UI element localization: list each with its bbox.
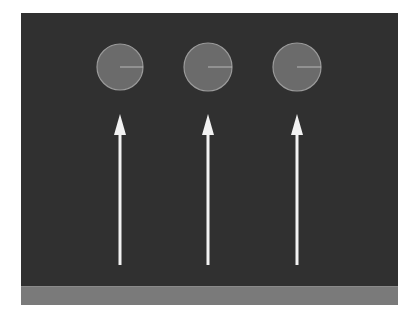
arrow-head bbox=[114, 114, 126, 135]
ball bbox=[97, 44, 143, 90]
scene-layer bbox=[0, 0, 416, 320]
ball bbox=[273, 43, 321, 91]
velocity-arrow-icon bbox=[291, 114, 303, 265]
arrow-head bbox=[291, 114, 303, 135]
velocity-arrow-icon bbox=[114, 114, 126, 265]
arrow-head bbox=[202, 114, 214, 135]
velocity-arrow-icon bbox=[202, 114, 214, 265]
ball bbox=[184, 43, 232, 91]
